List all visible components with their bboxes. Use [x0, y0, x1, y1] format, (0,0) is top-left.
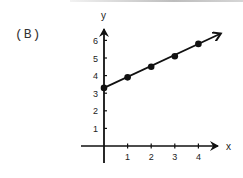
- data-point: [195, 41, 202, 48]
- y-tick-label: 5: [93, 54, 98, 64]
- x-axis-label: x: [226, 141, 231, 152]
- chart: 1234 123456 x y: [0, 0, 243, 178]
- x-tick-label: 4: [196, 152, 201, 162]
- data-point: [172, 53, 179, 60]
- y-tick-label: 1: [93, 124, 98, 134]
- y-tick-label: 3: [93, 89, 98, 99]
- y-tick-label: 4: [93, 71, 98, 81]
- y-axis-label: y: [101, 10, 106, 21]
- y-tick-label: 6: [93, 36, 98, 46]
- data-series: [101, 33, 221, 91]
- data-point: [101, 85, 108, 92]
- y-tick-label: 2: [93, 106, 98, 116]
- x-tick-label: 3: [172, 152, 177, 162]
- data-point: [124, 74, 131, 81]
- data-point: [148, 64, 155, 71]
- trend-line: [104, 33, 221, 87]
- x-tick-label: 2: [149, 152, 154, 162]
- x-tick-label: 1: [125, 152, 130, 162]
